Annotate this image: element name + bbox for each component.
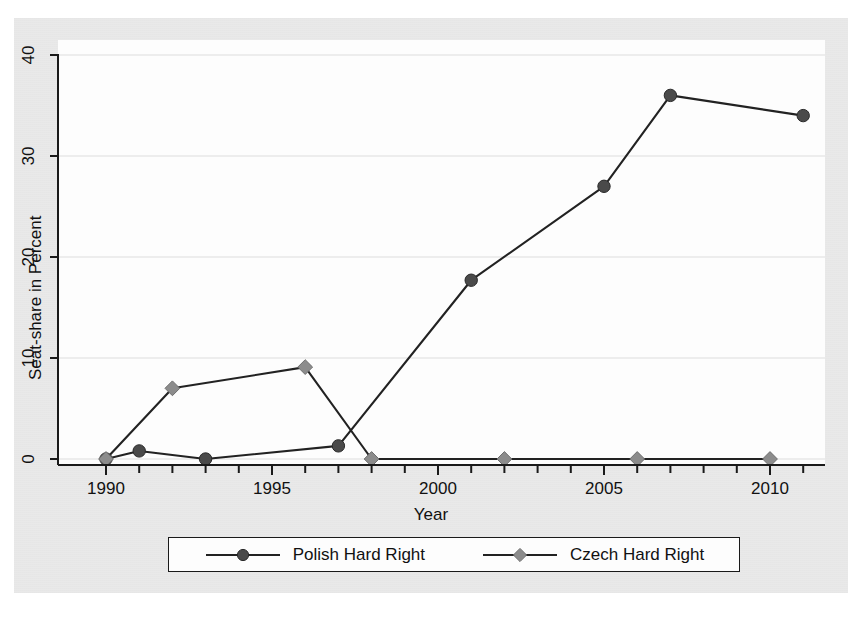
legend-diamond-marker xyxy=(513,548,526,561)
diamond-marker xyxy=(481,546,559,564)
chart-legend: Polish Hard RightCzech Hard Right xyxy=(168,537,740,572)
figure-container: Seat-share in Percent Year 010203040 199… xyxy=(0,0,862,618)
legend-label: Polish Hard Right xyxy=(293,545,425,565)
legend-circle-marker xyxy=(237,549,248,560)
legend-entry-polish[interactable]: Polish Hard Right xyxy=(204,545,425,565)
axes-canvas xyxy=(0,0,862,618)
legend-entry-czech[interactable]: Czech Hard Right xyxy=(481,545,704,565)
legend-label: Czech Hard Right xyxy=(570,545,704,565)
legend-entries: Polish Hard RightCzech Hard Right xyxy=(169,538,739,571)
circle-marker xyxy=(204,546,282,564)
